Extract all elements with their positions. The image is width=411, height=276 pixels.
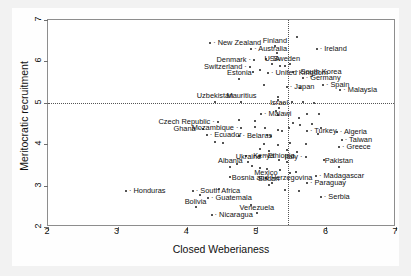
y-axis-tick: [44, 186, 48, 187]
y-axis-tick-label: 4: [33, 141, 43, 146]
x-axis-tick-label: 5: [253, 226, 258, 236]
x-axis-tick-label: 4: [184, 226, 189, 236]
data-point: [315, 175, 317, 177]
point-label: · Ethiopia: [263, 152, 294, 160]
data-point-unlabeled: [296, 36, 298, 38]
data-point-unlabeled: [311, 123, 313, 125]
data-point-unlabeled: [281, 130, 283, 132]
data-point-unlabeled: [318, 113, 320, 115]
point-label: · Ecuador: [210, 131, 242, 139]
data-point-unlabeled: [299, 124, 301, 126]
data-point-unlabeled: [264, 127, 266, 129]
point-label: Mauritius: [226, 92, 256, 100]
data-point: [339, 89, 341, 91]
point-label: Estonia: [227, 69, 252, 77]
y-axis-tick-label: 6: [33, 58, 43, 63]
data-point: [207, 197, 209, 199]
y-axis-tick-label: 7: [33, 16, 43, 21]
data-point-unlabeled: [251, 165, 253, 167]
point-label: · Australia: [254, 45, 287, 53]
data-point: [125, 190, 127, 192]
y-axis-tick: [44, 20, 48, 21]
data-point-unlabeled: [214, 141, 216, 143]
data-point: [305, 156, 307, 158]
y-axis-label: Meritocratic recruitment: [18, 16, 30, 216]
y-axis-tick-label: 3: [33, 182, 43, 187]
data-point-unlabeled: [284, 189, 286, 191]
figure-container: · New Zealand· AustraliaFinland· Ireland…: [0, 0, 411, 276]
data-point: [268, 184, 270, 186]
data-point-unlabeled: [298, 117, 300, 119]
data-point: [229, 166, 231, 168]
data-point-unlabeled: [289, 142, 291, 144]
point-label: · Malaysia: [343, 86, 377, 94]
data-point-unlabeled: [277, 129, 279, 131]
data-point: [302, 77, 304, 79]
x-axis-tick-label: 2: [44, 226, 49, 236]
data-point: [240, 127, 242, 129]
x-axis-tick-label: 3: [114, 226, 119, 236]
data-point-unlabeled: [277, 144, 279, 146]
data-point-unlabeled: [252, 71, 254, 73]
data-point: [247, 161, 249, 163]
point-label: · Nicaragua: [215, 211, 253, 219]
x-axis-tick-label: 6: [323, 226, 328, 236]
point-label: · Belarus: [242, 132, 272, 140]
data-point: [306, 182, 308, 184]
point-label: · Turkey: [310, 127, 337, 135]
data-point: [316, 48, 318, 50]
point-label: Ghana ·: [173, 125, 200, 133]
point-label: · Serbia: [324, 193, 350, 201]
data-point-unlabeled: [292, 122, 294, 124]
data-point: [209, 42, 211, 44]
data-point-unlabeled: [238, 119, 240, 121]
data-point: [267, 72, 269, 74]
data-point-unlabeled: [279, 169, 281, 171]
point-label: · Greece: [342, 143, 371, 151]
data-point-unlabeled: [298, 190, 300, 192]
data-point: [192, 190, 194, 192]
x-axis-label: Closed Weberianess: [47, 243, 395, 255]
point-label: USA: [265, 55, 280, 63]
data-point-unlabeled: [222, 142, 224, 144]
data-point-unlabeled: [305, 143, 307, 145]
data-point: [256, 212, 258, 214]
y-axis-tick: [44, 103, 48, 104]
point-label: · Paraguay: [310, 179, 346, 187]
point-label: Pakistan: [325, 157, 353, 165]
data-point-unlabeled: [306, 113, 308, 115]
data-point: [320, 196, 322, 198]
y-axis-tick-label: 2: [33, 223, 43, 228]
point-label: · Japan: [290, 83, 315, 91]
data-point: [195, 206, 197, 208]
data-point-unlabeled: [254, 120, 256, 122]
data-point-unlabeled: [263, 84, 265, 86]
data-point: [322, 84, 324, 86]
data-point: [211, 214, 213, 216]
x-axis-tick-label: 7: [392, 226, 397, 236]
horizontal-reference-line: [48, 103, 394, 104]
point-label: Bosnia and Herzegovina: [232, 174, 313, 182]
data-point: [253, 59, 255, 61]
data-point: [238, 78, 240, 80]
data-point-unlabeled: [259, 69, 261, 71]
y-axis-tick: [44, 144, 48, 145]
y-axis-tick-label: 5: [33, 99, 43, 104]
data-point: [206, 134, 208, 136]
point-label: · Honduras: [129, 187, 166, 195]
data-point-unlabeled: [263, 143, 265, 145]
data-point-unlabeled: [254, 126, 256, 128]
vertical-reference-line: [288, 20, 289, 225]
data-point: [260, 113, 262, 115]
point-label: Albania: [218, 157, 243, 165]
y-axis-tick: [44, 61, 48, 62]
data-point: [306, 130, 308, 132]
point-label: Finland: [263, 37, 287, 45]
data-point: [338, 146, 340, 148]
data-point: [271, 63, 273, 65]
point-label: · Guatemala: [211, 194, 252, 202]
point-label: Bolivia: [185, 198, 207, 206]
data-point: [341, 139, 343, 141]
data-point-unlabeled: [284, 65, 286, 67]
data-point: [250, 48, 252, 50]
